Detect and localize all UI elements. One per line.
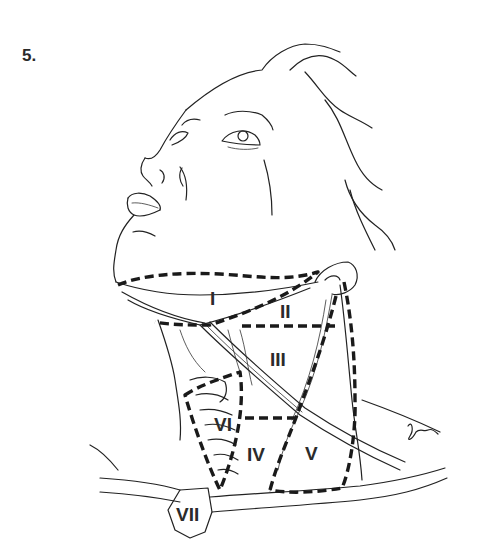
- label-level-i: I: [210, 288, 215, 309]
- neck-levels-diagram: I II III IV V VI VII: [0, 0, 484, 553]
- label-level-iii: III: [270, 349, 286, 370]
- artist-signature: [408, 424, 438, 439]
- level-labels: I II III IV V VI VII: [176, 288, 318, 525]
- head-outline: [114, 44, 395, 295]
- label-level-ii: II: [280, 301, 291, 322]
- label-level-vii: VII: [176, 504, 199, 525]
- label-level-vi: VI: [214, 414, 232, 435]
- label-level-iv: IV: [247, 444, 265, 465]
- neck-anatomy: [90, 285, 447, 538]
- label-level-v: V: [305, 443, 318, 464]
